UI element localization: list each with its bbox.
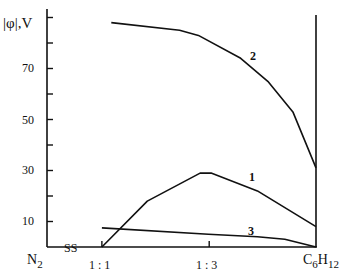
series-line-1 — [102, 173, 316, 247]
x-label-n2: N2 — [27, 253, 43, 270]
y-tick-label-30: 30 — [0, 164, 34, 176]
x-tick-label-1-1: 1 : 1 — [89, 259, 110, 271]
chart-plot-area — [0, 0, 354, 277]
curve-label-1: 1 — [249, 171, 255, 183]
series-line-2 — [111, 23, 316, 168]
y-tick-label-10: 10 — [0, 215, 34, 227]
curve-label-2: 2 — [250, 50, 256, 62]
y-tick-label-50: 50 — [0, 114, 34, 126]
y-ticks — [47, 18, 53, 222]
x-tick-label-1-3: 1 : 3 — [196, 259, 217, 271]
series-lines — [102, 23, 316, 247]
x-ticks — [102, 241, 209, 247]
y-tick-label-70: 70 — [0, 62, 34, 74]
y-axis-label: |φ|,V — [3, 16, 32, 31]
axes — [47, 9, 317, 247]
curve-label-3: 3 — [248, 225, 254, 237]
x-label-c6h12: C6H12 — [303, 253, 339, 270]
x-annotation-ss: SS — [64, 242, 77, 254]
